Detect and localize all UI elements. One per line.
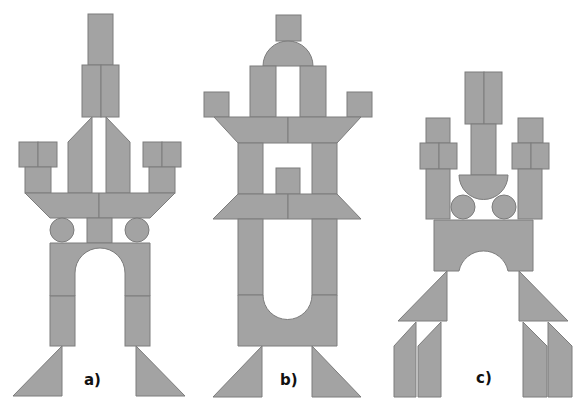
block-center-cube (87, 218, 112, 243)
figure-a-label: a) (84, 371, 101, 389)
block-dome (263, 41, 313, 66)
block-cube-right-2 (162, 142, 181, 167)
block-top-right (484, 72, 502, 124)
figure-c (394, 72, 572, 397)
block-ball-right (125, 218, 149, 242)
block-trapezoid-lower-right (288, 194, 361, 219)
figure-a (13, 14, 185, 396)
block-figures-canvas (0, 0, 584, 411)
block-ball-left (50, 218, 74, 242)
block-cube-right-1 (512, 143, 531, 169)
block-prism-left-1 (394, 322, 416, 397)
figure-b-label: b) (280, 371, 298, 389)
block-left-post (25, 167, 51, 193)
block-foot-right (312, 346, 361, 397)
block-triangle-right (519, 271, 568, 321)
block-cap-right (518, 118, 543, 143)
block-trapezoid-lower-left (213, 194, 288, 219)
block-upper-right (101, 65, 119, 117)
block-u-base (238, 295, 337, 346)
block-cube-left-1 (420, 143, 439, 169)
block-cube-left-1 (19, 142, 38, 167)
block-center-cube (276, 168, 300, 194)
block-trapezoid-right (99, 193, 175, 218)
block-right-post (149, 167, 175, 193)
block-top-left (465, 72, 484, 124)
block-prism-right-2 (548, 322, 572, 397)
block-leg-right (312, 219, 337, 295)
block-center-column (471, 124, 496, 175)
block-wedge-left (68, 117, 92, 193)
block-upper-left (82, 65, 101, 117)
block-foot-right (136, 346, 185, 396)
block-cube-right (347, 92, 372, 117)
figure-c-label: c) (476, 369, 492, 387)
block-trapezoid-upper-left (214, 117, 288, 143)
block-column-left (238, 143, 263, 194)
block-column-right (312, 143, 337, 194)
block-ball-right (492, 195, 516, 219)
block-wedge-right (106, 117, 130, 193)
block-cap-left (426, 118, 450, 143)
block-cube-left-2 (439, 143, 457, 169)
figure-b (204, 15, 372, 397)
block-leg-right (125, 296, 150, 346)
block-post-right (518, 169, 542, 219)
block-arch (434, 220, 533, 271)
block-cube-left-2 (38, 142, 57, 167)
block-arch (50, 243, 150, 296)
block-pillar-left (250, 66, 276, 117)
block-cube-right-1 (143, 142, 162, 167)
block-ball-left (451, 195, 475, 219)
block-prism-left-2 (418, 322, 441, 397)
block-top-column (88, 14, 113, 65)
block-cube-left (204, 92, 229, 117)
block-leg-left (238, 219, 263, 295)
block-foot-left (213, 346, 262, 397)
block-top-cube (276, 15, 301, 41)
block-foot-left (13, 346, 62, 396)
block-triangle-left (398, 271, 447, 321)
block-cube-right-2 (531, 143, 549, 169)
block-trapezoid-upper-right (288, 117, 361, 143)
block-pillar-right (300, 66, 326, 117)
block-prism-right-1 (523, 322, 547, 397)
block-leg-left (50, 296, 75, 346)
block-post-left (426, 169, 450, 219)
block-trapezoid-left (25, 193, 99, 218)
